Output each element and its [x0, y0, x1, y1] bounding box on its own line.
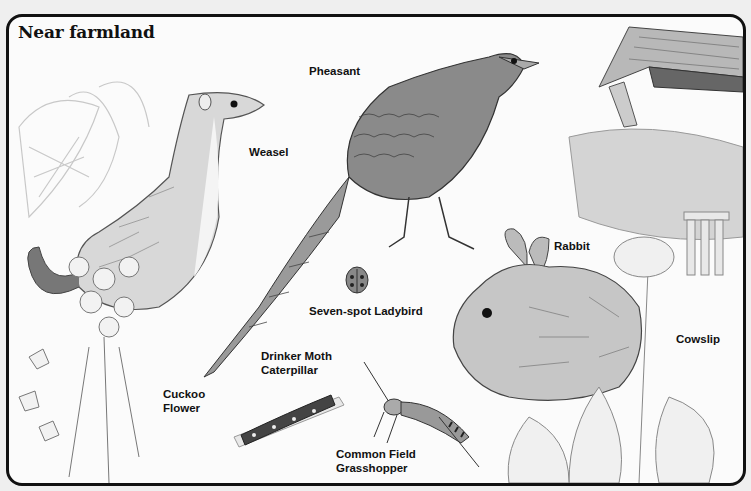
rabbit-illustration	[453, 229, 641, 401]
label-ladybird: Seven-spot Ladybird	[309, 304, 423, 318]
label-cuckoo-flower: Cuckoo Flower	[163, 387, 205, 415]
page-title: Near farmland	[18, 22, 155, 42]
ladybird-illustration	[346, 267, 368, 293]
label-weasel: Weasel	[249, 145, 288, 159]
illustration-frame: Near farmland Pheasant Weasel Seven-spot…	[6, 14, 746, 486]
background-leaves-illustration	[19, 82, 149, 217]
label-pheasant: Pheasant	[309, 64, 360, 78]
lychgate-illustration	[569, 27, 743, 275]
label-rabbit: Rabbit	[554, 239, 590, 253]
weasel-illustration	[28, 93, 264, 310]
farmland-illustration	[9, 17, 743, 483]
label-drinker-moth-caterpillar: Drinker Moth Caterpillar	[261, 349, 332, 377]
label-cowslip: Cowslip	[676, 332, 720, 346]
label-common-field-grasshopper: Common Field Grasshopper	[336, 447, 416, 475]
drinker-moth-caterpillar-illustration	[234, 395, 344, 447]
